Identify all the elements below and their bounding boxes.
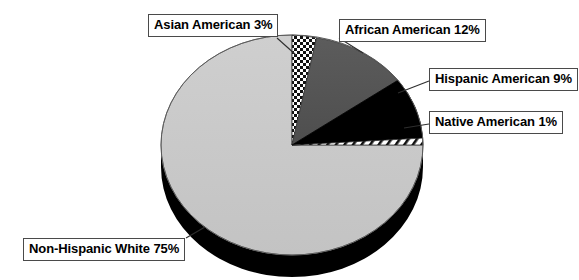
slice-label-asian-american[interactable]: Asian American 3% [148,14,278,37]
slice-label-african-american[interactable]: African American 12% [339,19,486,42]
slice-label-non-hispanic-white[interactable]: Non-Hispanic White 75% [23,238,185,261]
slice-label-hispanic-american[interactable]: Hispanic American 9% [429,68,578,91]
pie-slices [161,35,423,255]
chart-canvas: Asian American 3% African American 12% H… [0,0,579,280]
slice-label-native-american[interactable]: Native American 1% [429,111,563,134]
